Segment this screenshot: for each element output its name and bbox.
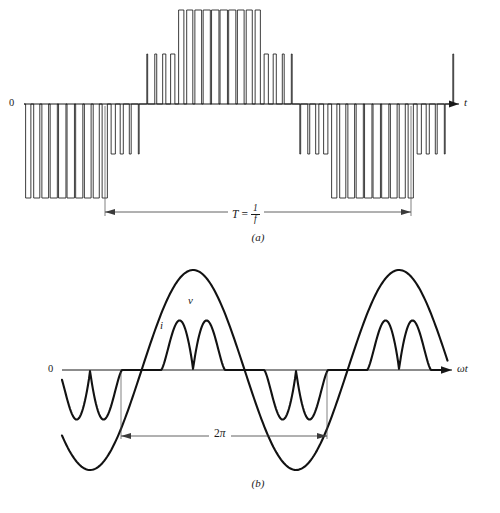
panel-b: 0 ωt v i 2π (b): [0, 256, 500, 513]
panel-b-origin-label: 0: [48, 364, 53, 375]
panel-b-caption: (b): [228, 478, 288, 489]
panel-a-axis: [24, 100, 459, 107]
panel-a-period-label: T = 1 f: [228, 204, 264, 226]
period-symbol: T: [232, 209, 238, 221]
period-fraction: 1 f: [251, 204, 260, 226]
panel-b-axis-label: ωt: [457, 363, 468, 374]
dimension-arrow-right-icon: [401, 209, 411, 215]
period-equals: =: [241, 209, 248, 221]
panel-a: 0 t T = 1 f (a): [0, 0, 500, 256]
period-numerator: 1: [251, 204, 260, 214]
panel-a-caption: (a): [228, 232, 288, 243]
cycle-symbol: π: [220, 427, 226, 439]
figure-container: 0 t T = 1 f (a): [0, 0, 500, 513]
panel-a-axis-label: t: [464, 97, 467, 108]
panel-b-plot: [0, 256, 500, 513]
dimension-arrow-left-icon: [121, 433, 131, 439]
period-denominator: f: [252, 215, 259, 225]
panel-a-origin-label: 0: [9, 98, 14, 109]
voltage-curve-label: v: [188, 295, 193, 306]
panel-a-dimension: [105, 106, 411, 216]
dimension-arrow-left-icon: [105, 209, 115, 215]
current-curve-label: i: [160, 320, 163, 331]
panel-b-cycle-label: 2π: [209, 428, 231, 440]
